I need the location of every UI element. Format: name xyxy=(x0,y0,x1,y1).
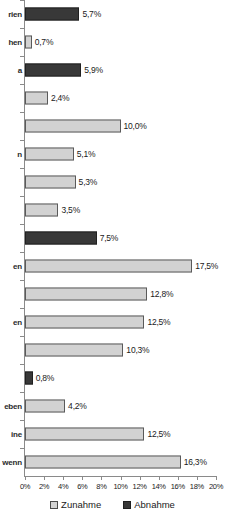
bar-category-label: n xyxy=(17,150,22,159)
bar-value-label: 5,9% xyxy=(84,65,103,75)
bar-value-label: 12,5% xyxy=(147,317,170,327)
category-tick xyxy=(20,280,24,281)
bar-row: a5,9% xyxy=(0,56,225,84)
bar-value-label: 10,3% xyxy=(126,345,149,355)
bar-category-label: en xyxy=(13,318,22,327)
bar-row: 10,0% xyxy=(0,112,225,140)
value-axis-tick-label: 10% xyxy=(113,482,127,491)
bar-row: 10,3% xyxy=(0,336,225,364)
bar-row: en12,5% xyxy=(0,308,225,336)
bar-value-label: 12,5% xyxy=(147,429,170,439)
value-axis-tick-label: 16% xyxy=(171,482,185,491)
bar-value-label: 5,1% xyxy=(77,149,96,159)
bar-category-label: a xyxy=(18,66,22,75)
value-axis-tick-label: 4% xyxy=(58,482,68,491)
category-tick xyxy=(20,140,24,141)
bar-row: rien5,7% xyxy=(0,0,225,28)
bar-value-label: 17,5% xyxy=(195,261,218,271)
value-axis-tick xyxy=(63,476,64,480)
bar-category-label: wenn xyxy=(2,458,22,467)
bar-value-label: 5,3% xyxy=(79,177,98,187)
bar-value-label: 2,4% xyxy=(51,93,70,103)
value-axis-tick xyxy=(101,476,102,480)
category-tick xyxy=(20,336,24,337)
bar xyxy=(25,456,181,469)
value-axis-tick-label: 2% xyxy=(39,482,49,491)
value-axis-tick xyxy=(44,476,45,480)
bar xyxy=(25,428,144,441)
bar-value-label: 0,8% xyxy=(36,373,55,383)
category-tick xyxy=(20,448,24,449)
value-axis-tick xyxy=(121,476,122,480)
bar-row: en17,5% xyxy=(0,252,225,280)
bar-value-label: 16,3% xyxy=(184,457,207,467)
category-tick xyxy=(20,308,24,309)
bar-row: 2,4% xyxy=(0,84,225,112)
value-axis-tick xyxy=(216,476,217,480)
plot-area: rien5,7%hen0,7%a5,9%2,4%10,0%n5,1%5,3%3,… xyxy=(0,0,225,476)
category-tick xyxy=(20,168,24,169)
category-tick xyxy=(20,56,24,57)
category-tick xyxy=(20,252,24,253)
bar-row: n5,1% xyxy=(0,140,225,168)
legend-label-abnahme: Abnahme xyxy=(134,499,175,510)
bar-value-label: 0,7% xyxy=(35,37,54,47)
legend-label-zunahme: Zunahme xyxy=(61,499,101,510)
bar-value-label: 4,2% xyxy=(68,401,87,411)
category-tick xyxy=(20,224,24,225)
bar-chart: rien5,7%hen0,7%a5,9%2,4%10,0%n5,1%5,3%3,… xyxy=(0,0,225,520)
value-axis-tick xyxy=(25,476,26,480)
bar xyxy=(25,288,147,301)
bar-value-label: 5,7% xyxy=(82,9,101,19)
value-axis-tick xyxy=(82,476,83,480)
bar-row: ine12,5% xyxy=(0,420,225,448)
legend-swatch-abnahme xyxy=(123,501,131,509)
value-axis-tick xyxy=(178,476,179,480)
bar-row: 0,8% xyxy=(0,364,225,392)
bar xyxy=(25,148,74,161)
value-axis-tick-label: 14% xyxy=(152,482,166,491)
value-axis-tick-label: 12% xyxy=(133,482,147,491)
bar-row: wenn16,3% xyxy=(0,448,225,476)
bar-row: hen0,7% xyxy=(0,28,225,56)
category-tick xyxy=(20,0,24,1)
category-tick xyxy=(20,28,24,29)
chart-legend: Zunahme Abnahme xyxy=(0,499,225,510)
legend-item-abnahme: Abnahme xyxy=(123,499,175,510)
value-axis-tick xyxy=(197,476,198,480)
bar-row: eben4,2% xyxy=(0,392,225,420)
bar xyxy=(25,344,123,357)
bar xyxy=(25,64,81,77)
bar-value-label: 12,8% xyxy=(150,289,173,299)
bar xyxy=(25,176,76,189)
value-axis-tick xyxy=(159,476,160,480)
bar-value-label: 7,5% xyxy=(100,233,119,243)
value-axis-tick-label: 0% xyxy=(20,482,30,491)
value-axis-tick-label: 20% xyxy=(209,482,223,491)
category-tick xyxy=(20,364,24,365)
bar xyxy=(25,120,121,133)
bar-category-label: ine xyxy=(11,430,22,439)
bar xyxy=(25,400,65,413)
category-tick xyxy=(20,112,24,113)
bar xyxy=(25,36,32,49)
category-tick xyxy=(20,392,24,393)
value-axis-tick xyxy=(140,476,141,480)
category-tick xyxy=(20,84,24,85)
bar-row: 5,3% xyxy=(0,168,225,196)
bar-category-label: eben xyxy=(4,402,22,411)
value-axis-tick-label: 6% xyxy=(77,482,87,491)
bar-value-label: 10,0% xyxy=(124,121,147,131)
bar xyxy=(25,372,33,385)
bar xyxy=(25,92,48,105)
bar xyxy=(25,260,192,273)
bar-row: 12,8% xyxy=(0,280,225,308)
bar-row: 7,5% xyxy=(0,224,225,252)
legend-swatch-zunahme xyxy=(50,501,58,509)
value-axis-tick-label: 18% xyxy=(190,482,204,491)
category-tick xyxy=(20,196,24,197)
bar-category-label: en xyxy=(13,262,22,271)
bar-value-label: 3,5% xyxy=(61,205,80,215)
bar-row: 3,5% xyxy=(0,196,225,224)
legend-item-zunahme: Zunahme xyxy=(50,499,101,510)
